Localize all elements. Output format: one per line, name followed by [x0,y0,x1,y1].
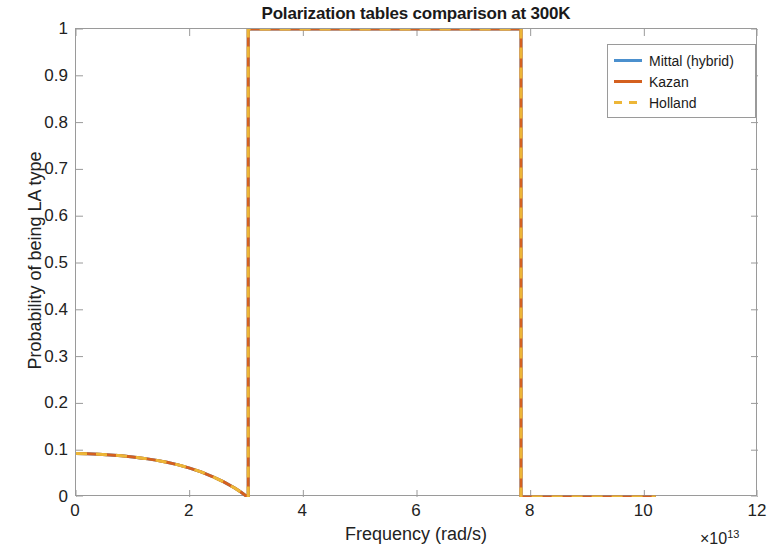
y-tick-label: 0.3 [8,347,68,364]
y-tick-label: 1 [8,20,68,37]
x-tick-label: 2 [159,502,219,519]
x-tick-label: 12 [727,502,775,519]
x-tick-label: 4 [272,502,332,519]
y-tick-label: 0.5 [8,254,68,271]
y-tick-label: 0.4 [8,300,68,317]
legend-color-swatch [614,59,642,62]
legend-item-label: Kazan [649,75,689,89]
x-axis-tick-labels: 024681012 [75,502,757,526]
legend-item[interactable]: Mittal (hybrid) [614,50,749,71]
data-series-line [76,29,656,497]
data-series-line [76,29,656,497]
x-axis-label: Frequency (rad/s) [75,524,757,545]
legend-item[interactable]: Kazan [614,71,749,92]
y-tick-label: 0.1 [8,441,68,458]
legend-item[interactable]: Holland [614,92,749,113]
figure-canvas: Polarization tables comparison at 300K P… [0,0,775,556]
y-tick-label: 0.6 [8,207,68,224]
x-tick-label: 8 [500,502,560,519]
data-series-line [76,29,656,497]
y-tick-label: 0.7 [8,160,68,177]
exponent-multiplier: ×10 [700,530,727,547]
x-tick-label: 6 [386,502,446,519]
legend: Mittal (hybrid)KazanHolland [607,44,756,118]
y-axis-tick-labels: 00.10.20.30.40.50.60.70.80.91 [4,28,68,496]
x-axis-exponent: ×1013 [700,528,739,548]
legend-color-swatch [614,80,642,83]
legend-item-label: Holland [649,96,696,110]
legend-color-swatch [614,101,642,104]
page-title: Polarization tables comparison at 300K [75,4,757,24]
y-tick-label: 0.9 [8,66,68,83]
x-tick-label: 10 [613,502,673,519]
y-tick-label: 0.8 [8,113,68,130]
legend-item-label: Mittal (hybrid) [649,54,734,68]
y-tick-label: 0.2 [8,394,68,411]
exponent-power: 13 [727,528,739,540]
x-tick-label: 0 [45,502,105,519]
